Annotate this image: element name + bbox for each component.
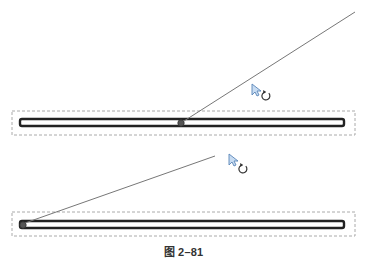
panel-bottom	[12, 154, 355, 236]
arrow-cursor-icon	[252, 84, 261, 96]
rotate-diagram	[0, 0, 367, 264]
pivot-point-icon[interactable]	[178, 120, 184, 126]
figure-canvas	[0, 0, 367, 264]
rotation-guide-line	[184, 12, 355, 121]
bar-shape[interactable]	[20, 221, 344, 228]
figure-caption: 图 2–81	[0, 243, 367, 259]
panel-top	[12, 12, 355, 135]
arrow-cursor-icon	[229, 154, 238, 166]
rotate-icon	[262, 90, 270, 100]
rotation-guide-line	[25, 156, 215, 223]
pivot-point-icon[interactable]	[20, 222, 26, 228]
rotate-icon	[239, 163, 247, 173]
